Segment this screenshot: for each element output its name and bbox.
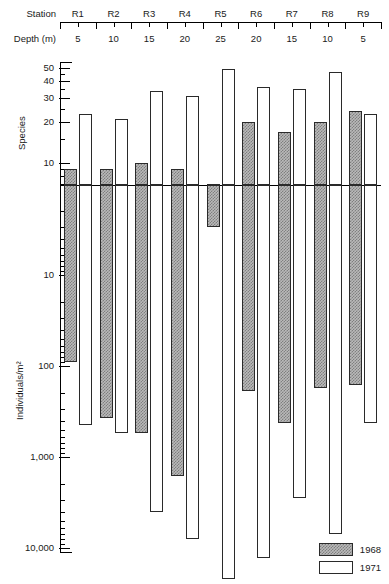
y-tick-individuals-1000 <box>59 457 70 458</box>
header-tick <box>238 22 239 29</box>
bar-species-r4-1968 <box>171 169 184 185</box>
station-header-r2: R2 <box>96 8 132 19</box>
y-ticklabel-species-30: 30 <box>18 92 54 103</box>
y-tick-individuals-10000 <box>59 548 70 549</box>
y-ticklabel-individuals-10: 10 <box>4 269 54 280</box>
bar-individuals-r2-1971 <box>115 185 128 433</box>
y-minortick-individuals <box>60 448 65 449</box>
axis-cap-bottom <box>60 552 72 553</box>
header-tick-minor <box>363 22 364 27</box>
bar-individuals-r7-1968 <box>278 185 291 423</box>
legend-swatch-1968 <box>319 543 353 556</box>
bar-species-r2-1971 <box>115 119 128 185</box>
bar-species-r7-1971 <box>293 89 306 185</box>
bar-individuals-r8-1968 <box>314 185 327 388</box>
lower-axis-title: Individuals/m² <box>14 361 25 420</box>
bar-individuals-r9-1968 <box>349 185 362 385</box>
axis-cap-top <box>60 62 72 63</box>
header-tick-minor <box>78 22 79 27</box>
header-tick <box>345 22 346 29</box>
y-minortick-individuals <box>60 430 65 431</box>
header-tick-minor <box>328 22 329 27</box>
bar-species-r9-1971 <box>364 114 377 185</box>
depth-header-r2: 10 <box>96 33 132 44</box>
bar-individuals-r1-1968 <box>64 185 77 362</box>
y-ticklabel-individuals-1000: 1,000 <box>4 451 54 462</box>
bar-individuals-r6-1968 <box>242 185 255 391</box>
header-tick <box>203 22 204 29</box>
bar-individuals-r6-1971 <box>257 185 270 558</box>
depth-header-r8: 10 <box>310 33 346 44</box>
y-minortick-species <box>60 89 65 90</box>
upper-axis-title: Species <box>16 116 27 150</box>
y-tick-species-50 <box>59 68 70 69</box>
bar-species-r6-1968 <box>242 122 255 185</box>
bar-species-r6-1971 <box>257 87 270 185</box>
y-minortick-individuals <box>60 453 65 454</box>
bar-species-r9-1968 <box>349 111 362 185</box>
bar-individuals-r3-1968 <box>135 185 148 433</box>
y-ticklabel-species-50: 50 <box>18 62 54 73</box>
y-tick-species-30 <box>59 98 70 99</box>
bar-individuals-r4-1971 <box>186 185 199 539</box>
bar-individuals-r8-1971 <box>329 185 342 534</box>
y-minortick-individuals <box>60 421 65 422</box>
station-row-label: Station <box>0 8 56 19</box>
station-header-r7: R7 <box>274 8 310 19</box>
header-tick <box>96 22 97 29</box>
chart-figure: StationDepth (m)R15R210R315R420R525R620R… <box>0 0 389 584</box>
y-minortick-individuals <box>60 393 65 394</box>
y-minortick-species <box>60 109 65 110</box>
depth-row-label: Depth (m) <box>0 33 56 44</box>
header-tick-minor <box>185 22 186 27</box>
y-tick-species-40 <box>59 81 70 82</box>
depth-header-r1: 5 <box>60 33 96 44</box>
y-minortick-species <box>60 139 65 140</box>
bar-species-r2-1968 <box>100 169 113 185</box>
station-header-r9: R9 <box>345 8 381 19</box>
station-header-r3: R3 <box>131 8 167 19</box>
y-minortick-species <box>60 74 65 75</box>
bar-species-r1-1968 <box>64 169 77 185</box>
bar-species-r1-1971 <box>79 114 92 185</box>
y-ticklabel-individuals-100: 100 <box>4 360 54 371</box>
header-tick-minor <box>149 22 150 27</box>
header-tick-minor <box>256 22 257 27</box>
station-header-r8: R8 <box>310 8 346 19</box>
depth-header-r7: 15 <box>274 33 310 44</box>
station-header-r6: R6 <box>238 8 274 19</box>
depth-header-r9: 5 <box>345 33 381 44</box>
y-minortick-individuals <box>60 443 65 444</box>
y-minortick-individuals <box>60 500 65 501</box>
header-tick <box>167 22 168 29</box>
header-tick-minor <box>292 22 293 27</box>
y-minortick-individuals <box>60 409 65 410</box>
header-tick-minor <box>114 22 115 27</box>
bar-individuals-r7-1971 <box>293 185 306 498</box>
bar-individuals-r2-1968 <box>100 185 113 418</box>
bar-species-r3-1968 <box>135 163 148 185</box>
y-minortick-individuals <box>60 362 65 363</box>
bar-individuals-r9-1971 <box>364 185 377 423</box>
depth-header-r3: 15 <box>131 33 167 44</box>
bar-species-r8-1971 <box>329 72 342 185</box>
header-tick <box>274 22 275 29</box>
y-axis-line <box>60 62 61 552</box>
bar-species-r3-1971 <box>150 91 163 185</box>
y-minortick-individuals <box>60 484 65 485</box>
y-ticklabel-species-40: 40 <box>18 75 54 86</box>
header-tick <box>131 22 132 29</box>
header-tick-minor <box>221 22 222 27</box>
depth-header-r4: 20 <box>167 33 203 44</box>
y-minortick-individuals <box>60 534 65 535</box>
depth-header-r5: 25 <box>203 33 239 44</box>
bar-species-r8-1968 <box>314 122 327 185</box>
bar-species-r5-1971 <box>222 69 235 185</box>
legend-item-1968: 1968 <box>319 543 381 556</box>
legend-label-1968: 1968 <box>360 544 381 555</box>
bar-individuals-r1-1971 <box>79 185 92 425</box>
legend-label-1971: 1971 <box>360 562 381 573</box>
y-ticklabel-species-10: 10 <box>18 157 54 168</box>
bar-individuals-r4-1968 <box>171 185 184 476</box>
y-minortick-individuals <box>60 512 65 513</box>
